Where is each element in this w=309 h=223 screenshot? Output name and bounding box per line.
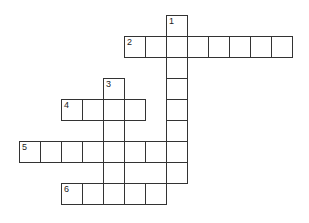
crossword-cell[interactable]: 1 — [166, 15, 188, 37]
crossword-cell[interactable] — [124, 141, 146, 163]
crossword-cell[interactable] — [229, 36, 251, 58]
crossword-cell[interactable] — [145, 141, 167, 163]
crossword-cell[interactable] — [145, 36, 167, 58]
crossword-cell[interactable] — [103, 120, 125, 142]
crossword-cell[interactable] — [166, 57, 188, 79]
crossword-cell[interactable] — [145, 183, 167, 205]
crossword-cell[interactable] — [124, 99, 146, 121]
crossword-cell[interactable] — [40, 141, 62, 163]
crossword-cell[interactable] — [271, 36, 293, 58]
crossword-cell[interactable]: 4 — [61, 99, 83, 121]
crossword-cell[interactable] — [103, 141, 125, 163]
crossword-cell[interactable]: 2 — [124, 36, 146, 58]
crossword-cell[interactable] — [124, 183, 146, 205]
clue-number: 2 — [127, 37, 132, 47]
crossword-cell[interactable] — [82, 183, 104, 205]
clue-number: 4 — [64, 100, 69, 110]
crossword-cell[interactable] — [208, 36, 230, 58]
clue-number: 1 — [169, 16, 174, 26]
crossword-cell[interactable] — [103, 162, 125, 184]
crossword-cell[interactable] — [166, 162, 188, 184]
crossword-cell[interactable]: 5 — [19, 141, 41, 163]
crossword-cell[interactable] — [103, 183, 125, 205]
clue-number: 5 — [22, 142, 27, 152]
crossword-cell[interactable] — [166, 99, 188, 121]
crossword-cell[interactable]: 6 — [61, 183, 83, 205]
crossword-cell[interactable] — [250, 36, 272, 58]
crossword-cell[interactable] — [103, 99, 125, 121]
clue-number: 3 — [106, 79, 111, 89]
crossword-cell[interactable] — [187, 36, 209, 58]
crossword-cell[interactable] — [61, 141, 83, 163]
clue-number: 6 — [64, 184, 69, 194]
crossword-cell[interactable] — [82, 99, 104, 121]
crossword-cell[interactable]: 3 — [103, 78, 125, 100]
crossword-cell[interactable] — [166, 141, 188, 163]
crossword-cell[interactable] — [166, 36, 188, 58]
crossword-cell[interactable] — [166, 120, 188, 142]
crossword-cell[interactable] — [82, 141, 104, 163]
crossword-cell[interactable] — [166, 78, 188, 100]
